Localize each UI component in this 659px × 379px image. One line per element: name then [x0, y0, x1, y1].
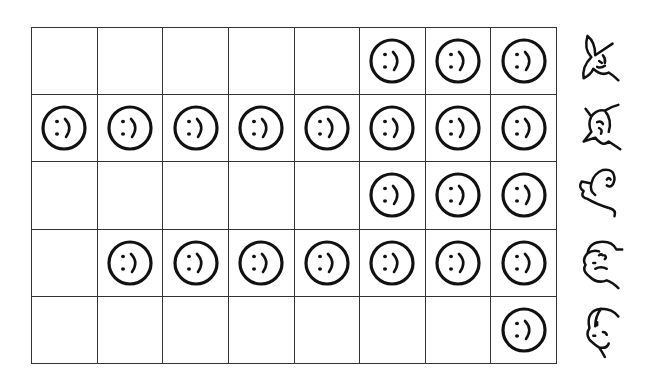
smiley-face-icon [302, 103, 352, 153]
smiley-face-icon [367, 238, 417, 288]
smiley-face-icon [499, 170, 549, 220]
smiley-face-icon [367, 170, 417, 220]
smiley-face-icon [499, 103, 549, 153]
smiley-face-icon [171, 238, 221, 288]
grid-cell [491, 230, 557, 297]
pictograph-grid [31, 27, 557, 364]
grid-cell [426, 162, 492, 229]
grid-cell [491, 162, 557, 229]
category-label-boy [566, 297, 636, 364]
grid-cell [295, 297, 361, 364]
smiley-face-icon [499, 305, 549, 355]
grid-cell [32, 162, 98, 229]
grid-cell [360, 95, 426, 162]
grid-cell [229, 95, 295, 162]
grid-cell [163, 297, 229, 364]
cat-icon [574, 99, 628, 157]
smiley-face-icon [499, 36, 549, 86]
man-cap-icon [574, 234, 628, 292]
grid-cell [491, 95, 557, 162]
category-label-cat [566, 94, 636, 161]
grid-cell [426, 95, 492, 162]
grid-cell [229, 162, 295, 229]
rabbit-icon [574, 32, 628, 90]
smiley-face-icon [367, 36, 417, 86]
grid-cell [360, 28, 426, 95]
grid-cell [360, 162, 426, 229]
grid-cell [98, 230, 164, 297]
grid-cell [229, 28, 295, 95]
grid-cell [163, 230, 229, 297]
smiley-face-icon [236, 238, 286, 288]
smiley-face-icon [499, 238, 549, 288]
grid-cell [360, 230, 426, 297]
grid-cell [98, 162, 164, 229]
grid-cell [163, 28, 229, 95]
grid-cell [426, 28, 492, 95]
grid-cell [491, 297, 557, 364]
category-labels [566, 27, 636, 364]
grid-cell [295, 230, 361, 297]
grid-cell [426, 230, 492, 297]
grid-cell [229, 230, 295, 297]
smiley-face-icon [171, 103, 221, 153]
smiley-face-icon [433, 103, 483, 153]
grid-cell [163, 162, 229, 229]
smiley-face-icon [302, 238, 352, 288]
grid-cell [295, 162, 361, 229]
category-label-dog [566, 162, 636, 229]
grid-cell [32, 28, 98, 95]
grid-cell [360, 297, 426, 364]
smiley-face-icon [433, 238, 483, 288]
grid-cell [32, 95, 98, 162]
grid-cell [295, 28, 361, 95]
grid-cell [491, 28, 557, 95]
grid-cell [426, 297, 492, 364]
smiley-face-icon [433, 36, 483, 86]
smiley-face-icon [367, 103, 417, 153]
category-label-rabbit [566, 27, 636, 94]
grid-cell [229, 297, 295, 364]
boy-icon [574, 301, 628, 359]
smiley-face-icon [105, 103, 155, 153]
grid-cell [163, 95, 229, 162]
grid-cell [98, 95, 164, 162]
category-label-man-with-cap [566, 229, 636, 296]
grid-cell [32, 230, 98, 297]
grid-cell [295, 95, 361, 162]
grid-cell [98, 297, 164, 364]
grid-cell [32, 297, 98, 364]
grid-cell [98, 28, 164, 95]
smiley-face-icon [433, 170, 483, 220]
smiley-face-icon [105, 238, 155, 288]
smiley-face-icon [236, 103, 286, 153]
smiley-face-icon [39, 103, 89, 153]
dog-icon [574, 166, 628, 224]
